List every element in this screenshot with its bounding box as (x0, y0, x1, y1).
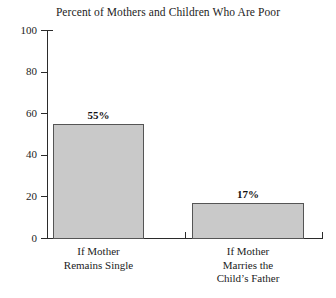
y-tick-label-40: 40 (3, 149, 37, 160)
bar-chart-figure: Percent of Mothers and Children Who Are … (0, 0, 336, 298)
bar-if-mother-marries-childs-father (192, 203, 304, 239)
y-tick-0 (41, 238, 48, 239)
category-label-1-line-1: Marries the (192, 259, 304, 273)
category-label-1-line-0: If Mother (192, 245, 304, 259)
y-tick-20 (41, 196, 48, 197)
plot-area: 020406080100 55% 17% If Mother Remains S… (0, 0, 336, 298)
y-tick-label-60: 60 (3, 108, 37, 119)
y-tick-80 (41, 72, 48, 73)
x-axis-end-tick (322, 232, 323, 239)
category-label-0-line-0: If Mother (53, 245, 144, 259)
bar-if-mother-remains-single (53, 124, 144, 239)
category-label-0: If Mother Remains Single (53, 245, 144, 272)
bar-value-label-1: 17% (192, 188, 304, 200)
y-tick-label-100: 100 (3, 25, 37, 36)
y-axis-line (47, 30, 48, 239)
x-axis-category-divider-tick (185, 232, 186, 239)
y-tick-label-20: 20 (3, 191, 37, 202)
y-tick-40 (41, 155, 48, 156)
y-tick-label-0: 0 (3, 233, 37, 244)
bar-value-label-0: 55% (53, 109, 144, 121)
y-tick-label-80: 80 (3, 66, 37, 77)
y-tick-100 (41, 30, 48, 31)
category-label-1-line-2: Child’s Father (192, 272, 304, 286)
category-label-0-line-1: Remains Single (53, 259, 144, 273)
category-label-1: If Mother Marries the Child’s Father (192, 245, 304, 286)
y-tick-60 (41, 113, 48, 114)
